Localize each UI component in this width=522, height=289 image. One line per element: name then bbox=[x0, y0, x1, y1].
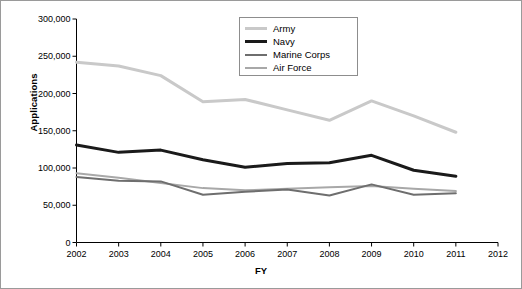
x-tick-label: 2006 bbox=[235, 249, 255, 259]
legend-label-army: Army bbox=[273, 22, 295, 35]
y-tick-labels: 050,000100,000150,000200,000250,000300,0… bbox=[38, 14, 71, 248]
y-tick-label: 50,000 bbox=[43, 200, 71, 210]
series-line-air-force bbox=[77, 173, 456, 191]
legend-item-navy: Navy bbox=[245, 35, 352, 48]
y-tick-label: 150,000 bbox=[38, 126, 71, 136]
x-tick-label: 2003 bbox=[109, 249, 129, 259]
legend-swatch-marine-corps bbox=[245, 54, 267, 56]
x-tick-label: 2002 bbox=[66, 249, 86, 259]
legend-swatch-navy bbox=[245, 40, 267, 43]
y-tick-label: 250,000 bbox=[38, 51, 71, 61]
y-tick-label: 100,000 bbox=[38, 163, 71, 173]
x-tick-label: 2009 bbox=[362, 249, 382, 259]
y-tick-label: 300,000 bbox=[38, 14, 71, 24]
x-tick-label: 2008 bbox=[319, 249, 339, 259]
series-lines bbox=[77, 62, 456, 195]
y-tick-label: 0 bbox=[65, 238, 70, 248]
legend-label-marine-corps: Marine Corps bbox=[273, 48, 330, 61]
x-tick-label: 2010 bbox=[404, 249, 424, 259]
x-tick-label: 2005 bbox=[193, 249, 213, 259]
legend-item-air-force: Air Force bbox=[245, 61, 352, 74]
x-tick-label: 2011 bbox=[446, 249, 465, 259]
legend-swatch-air-force bbox=[245, 67, 267, 69]
chart-legend: Army Navy Marine Corps Air Force bbox=[239, 17, 358, 76]
legend-item-marine-corps: Marine Corps bbox=[245, 48, 352, 61]
legend-label-air-force: Air Force bbox=[273, 61, 312, 74]
x-tick-labels: 2002200320042005200620072008200920102011… bbox=[66, 249, 508, 259]
y-tick-label: 200,000 bbox=[38, 89, 71, 99]
x-tick-label: 2012 bbox=[488, 249, 508, 259]
legend-label-navy: Navy bbox=[273, 35, 295, 48]
x-tick-label: 2004 bbox=[151, 249, 171, 259]
legend-item-army: Army bbox=[245, 22, 352, 35]
applications-by-service-line-chart: Applications FY 050,000100,000150,000200… bbox=[0, 0, 522, 289]
legend-swatch-army bbox=[245, 27, 267, 30]
series-line-navy bbox=[77, 145, 456, 176]
x-tick-label: 2007 bbox=[277, 249, 297, 259]
